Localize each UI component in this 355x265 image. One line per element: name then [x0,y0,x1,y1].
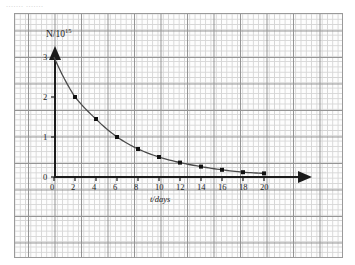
data-point [178,161,182,165]
data-point [115,135,119,139]
data-point [262,171,266,175]
data-point [73,95,77,99]
x-tick-label: 14 [197,182,206,192]
x-tick-label: 6 [113,182,117,192]
data-point [241,170,245,174]
x-axis-label: t/days [150,194,170,204]
y-tick-label: 0 [43,172,47,182]
y-tick-label: 3 [43,52,47,62]
x-tick-label: 18 [239,182,248,192]
y-tick-label: 2 [43,92,47,102]
x-tick-label: 4 [92,182,96,192]
data-point [94,117,98,121]
data-point [136,147,140,151]
screenshot-root: ....... ....... [0,0,355,265]
x-tick-label: 12 [176,182,185,192]
x-tick-label: 2 [71,182,75,192]
y-tick-label: 1 [43,132,47,142]
decay-curve-plot [0,0,355,265]
x-tick-label: 20 [260,182,269,192]
y-axis-label: N/1015 [46,27,72,39]
data-point [220,168,224,172]
x-tick-label: 0 [50,182,54,192]
x-tick-label: 16 [218,182,227,192]
data-point [157,155,161,159]
data-point [199,165,203,169]
x-tick-label: 8 [134,182,138,192]
data-point-markers [73,95,266,175]
x-tick-label: 10 [155,182,164,192]
